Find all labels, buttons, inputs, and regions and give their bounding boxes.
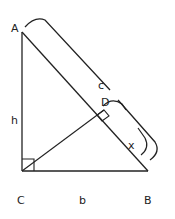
vertex-label-a: A xyxy=(11,23,19,34)
segment-label-x: x xyxy=(128,140,135,151)
segment-label-h: h xyxy=(11,115,18,126)
diagram-canvas: A h c D x C b B xyxy=(0,0,175,219)
brace-c xyxy=(25,19,157,160)
right-angle-marker-d xyxy=(97,110,109,121)
vertex-label-d: D xyxy=(101,97,109,108)
vertex-label-c: C xyxy=(17,195,25,206)
triangle-figure xyxy=(0,0,175,219)
segment-label-b: b xyxy=(79,195,86,206)
segment-label-c: c xyxy=(98,80,104,91)
vertex-label-b: B xyxy=(144,195,152,206)
